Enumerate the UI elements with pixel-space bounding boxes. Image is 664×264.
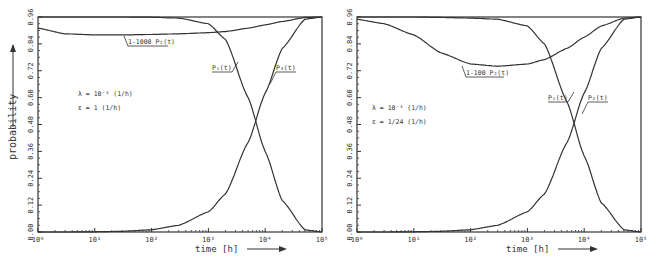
y-tick-label: 0.60 — [27, 89, 35, 106]
curve-label-p1: P₁(t) — [212, 64, 232, 72]
x-tick-label: 10⁵ — [316, 236, 329, 244]
series-line — [357, 17, 641, 66]
x-axis-label: time [h] — [195, 244, 238, 254]
y-tick-label: 0.48 — [346, 116, 354, 133]
y-tick-label: 0.72 — [27, 62, 35, 79]
curve-label-1-100p2: 1-100 P₂(t) — [466, 69, 509, 77]
y-tick-label: 0.72 — [346, 62, 354, 79]
x-tick-label: 10⁴ — [578, 236, 591, 244]
x-tick-label: 10⁴ — [259, 236, 272, 244]
y-tick-label: 0.12 — [346, 197, 354, 214]
x-axis-label: time [h] — [506, 244, 549, 254]
x-tick-label: 10² — [145, 236, 158, 244]
chart-right: 0.000.120.240.360.480.600.720.840.9610⁰1… — [332, 0, 664, 264]
curve-label-p1: P₁(t) — [548, 94, 568, 102]
y-tick-label: 0.12 — [27, 197, 35, 214]
curve-label-p2: P₂(t) — [588, 94, 608, 102]
x-tick-label: 10⁵ — [635, 236, 648, 244]
x-tick-label: 10⁰ — [32, 236, 45, 244]
y-tick-label: 0.36 — [27, 143, 35, 160]
y-tick-label: 0.48 — [27, 116, 35, 133]
x-tick-label: 10³ — [202, 236, 215, 244]
arrow-up-icon — [10, 44, 16, 52]
arrow-right-icon — [279, 246, 287, 252]
series-line — [38, 17, 322, 232]
y-tick-label: 0.84 — [27, 35, 35, 52]
y-tick-label: 0.96 — [346, 9, 354, 26]
curve-label-1-1000p2: 1-1000 P₂(t) — [128, 38, 175, 46]
y-tick-label: 0.96 — [27, 9, 35, 26]
lambda-annotation: λ = 10⁻⁴ (1/h) — [78, 90, 133, 98]
arrow-right-icon — [590, 246, 598, 252]
lambda-annotation: λ = 10⁻⁴ (1/h) — [372, 104, 427, 112]
x-tick-label: 10² — [464, 236, 477, 244]
chart-left: 0.000.120.240.360.480.600.720.840.9610⁰1… — [0, 0, 332, 264]
y-tick-label: 0.24 — [27, 170, 35, 187]
epsilon-annotation: ε = 1 (1/h) — [78, 104, 121, 112]
y-tick-label: 0.84 — [346, 35, 354, 52]
y-tick-label: 0.24 — [346, 170, 354, 187]
x-tick-label: 10¹ — [88, 236, 101, 244]
x-tick-label: 10³ — [521, 236, 534, 244]
y-tick-label: 0.60 — [346, 89, 354, 106]
plot-frame — [38, 17, 322, 232]
x-tick-label: 10⁰ — [351, 236, 364, 244]
series-line — [38, 17, 322, 232]
epsilon-annotation: ε = 1/24 (1/h) — [372, 118, 427, 126]
x-tick-label: 10¹ — [407, 236, 420, 244]
y-tick-label: 0.36 — [346, 143, 354, 160]
series-line — [38, 17, 322, 35]
curve-label-p3: P₃(t) — [276, 64, 296, 72]
